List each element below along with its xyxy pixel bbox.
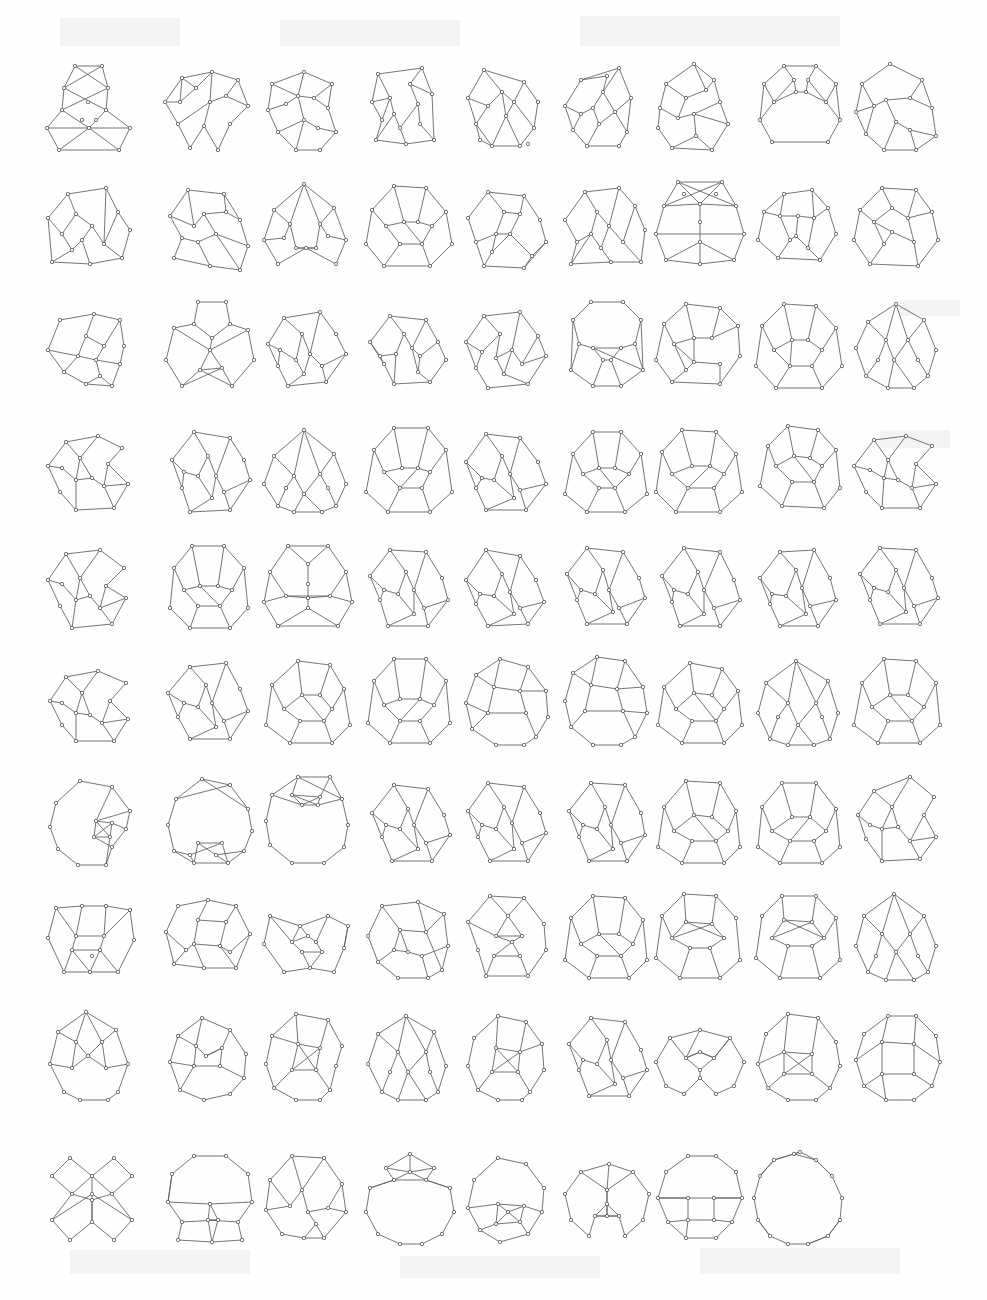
graph-node xyxy=(852,464,855,467)
graph-node xyxy=(366,721,369,724)
graph-edge xyxy=(625,785,641,813)
graph-node xyxy=(512,847,515,850)
graph-edge xyxy=(764,66,784,84)
graph-node xyxy=(890,230,893,233)
graph-edge xyxy=(496,358,504,374)
graph-edge xyxy=(686,304,720,308)
graph-figure xyxy=(42,773,142,873)
edge-group xyxy=(50,671,128,741)
graph-node xyxy=(567,1042,570,1045)
graph-node xyxy=(526,382,529,385)
graph-edge xyxy=(496,1048,518,1072)
graph-edge xyxy=(466,462,482,478)
graph-node xyxy=(589,1016,592,1019)
graph-node xyxy=(684,1236,687,1239)
graph-drawing xyxy=(42,773,142,873)
graph-edge xyxy=(210,72,212,102)
graph-edge xyxy=(912,484,936,488)
graph-edge xyxy=(710,466,724,474)
graph-edge xyxy=(468,1038,474,1066)
graph-edge xyxy=(302,334,310,354)
graph-edge xyxy=(398,594,414,614)
graph-node xyxy=(534,735,537,738)
graph-drawing xyxy=(557,1008,657,1108)
graph-edge xyxy=(368,1034,378,1064)
graph-node xyxy=(62,370,65,373)
graph-edge xyxy=(666,84,686,98)
graph-edge xyxy=(318,128,336,132)
graph-edge xyxy=(80,550,100,578)
graph-edge xyxy=(266,795,272,821)
graph-edge xyxy=(520,1222,528,1234)
graph-edge xyxy=(710,948,720,978)
graph-edge xyxy=(178,1036,196,1046)
graph-figure xyxy=(458,422,558,522)
graph-node xyxy=(906,338,909,341)
graph-edge xyxy=(585,192,597,212)
graph-node xyxy=(106,1098,109,1101)
graph-edge xyxy=(536,717,548,737)
graph-node xyxy=(738,354,741,357)
graph-node xyxy=(896,825,899,828)
graph-node xyxy=(820,464,823,467)
graph-node xyxy=(894,568,897,571)
graph-drawing xyxy=(258,1150,358,1250)
graph-node xyxy=(302,70,305,73)
graph-edge xyxy=(190,727,216,739)
graph-node xyxy=(726,122,729,125)
graph-edge xyxy=(428,789,444,815)
graph-node xyxy=(912,386,915,389)
graph-node xyxy=(80,238,83,241)
graph-edge xyxy=(476,106,488,124)
graph-edge xyxy=(78,336,86,356)
graph-edge xyxy=(418,428,428,468)
graph-node xyxy=(240,1238,243,1241)
graph-edge xyxy=(778,258,820,260)
graph-edge xyxy=(764,84,774,102)
graph-edge xyxy=(674,344,686,370)
graph-edge xyxy=(324,709,332,721)
graph-node xyxy=(722,472,725,475)
graph-edge xyxy=(488,783,504,807)
edge-group xyxy=(856,1016,940,1100)
graph-node xyxy=(412,823,415,826)
graph-node xyxy=(206,898,209,901)
edge-group xyxy=(565,896,647,978)
graph-edge xyxy=(880,612,906,624)
graph-node xyxy=(316,803,319,806)
graph-node xyxy=(92,835,95,838)
graph-edge xyxy=(510,234,532,256)
graph-node xyxy=(314,1068,317,1071)
graph-edge xyxy=(272,777,298,795)
graph-node xyxy=(432,138,435,141)
graph-figure xyxy=(750,538,850,638)
graph-node xyxy=(168,606,171,609)
graph-node xyxy=(302,1236,305,1239)
graph-node xyxy=(680,861,683,864)
graph-node xyxy=(611,610,614,613)
graph-node xyxy=(238,687,241,690)
graph-node xyxy=(300,332,303,335)
graph-edge xyxy=(434,681,446,705)
graph-node xyxy=(718,976,721,979)
graph-edge xyxy=(370,550,390,576)
graph-edge xyxy=(573,432,593,454)
graph-edge xyxy=(565,1194,571,1220)
graph-node xyxy=(672,829,675,832)
graph-node xyxy=(228,322,231,325)
graph-edge xyxy=(430,360,446,382)
graph-edge xyxy=(194,214,204,226)
graph-node xyxy=(334,332,337,335)
edge-group xyxy=(758,783,840,863)
edge-group xyxy=(656,304,740,384)
graph-node xyxy=(224,1154,227,1157)
graph-edge xyxy=(716,831,728,841)
graph-edge xyxy=(874,777,910,791)
graph-node xyxy=(886,1014,889,1017)
graph-node xyxy=(466,1064,469,1067)
graph-edge xyxy=(180,1066,194,1090)
graph-node xyxy=(896,478,899,481)
graph-node xyxy=(508,590,511,593)
graph-edge xyxy=(656,360,672,382)
graph-edge xyxy=(587,488,599,512)
